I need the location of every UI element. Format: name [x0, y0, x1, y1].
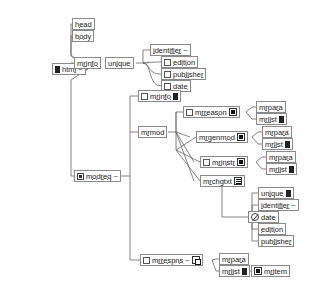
- solid-bar-icon[interactable]: [242, 268, 247, 275]
- tree-node-label: mrlist: [269, 165, 287, 174]
- empty-checkbox-icon[interactable]: [164, 83, 171, 90]
- tree-node-head[interactable]: head: [72, 18, 95, 30]
- tree-node-mrpara2[interactable]: mrpara: [262, 126, 292, 138]
- tree-node-label: mrlist: [265, 140, 283, 149]
- tree-node-label: mrchgtxt: [203, 177, 232, 186]
- tree-node-label: mrrespns: [152, 256, 183, 265]
- tree-node-unique2[interactable]: unique: [258, 187, 294, 199]
- empty-checkbox-icon[interactable]: [143, 257, 150, 264]
- tree-node-label: mrinfo: [150, 92, 171, 101]
- tree-node-mrreason[interactable]: mrreason: [183, 106, 240, 118]
- duplicate-box-icon[interactable]: [192, 256, 200, 264]
- empty-checkbox-icon[interactable]: [186, 109, 193, 116]
- filled-square-icon[interactable]: [237, 133, 245, 141]
- tree-node-label: mrpara: [222, 255, 246, 264]
- tree-node-label: unique: [261, 189, 284, 198]
- tree-node-edition2[interactable]: edition: [258, 223, 286, 235]
- tree-node-mrinfo2[interactable]: mrinfo: [138, 90, 181, 102]
- empty-checkbox-icon[interactable]: [141, 93, 148, 100]
- tree-node-identifier1[interactable]: identifier~: [150, 44, 191, 56]
- tree-node-mrmod[interactable]: mrmod: [138, 126, 167, 138]
- tree-node-mrlist2[interactable]: mrlist: [262, 138, 293, 150]
- tree-node-label: mrmod: [141, 128, 164, 137]
- tree-node-label: mrlist: [259, 115, 277, 124]
- tree-node-edition1[interactable]: edition: [161, 56, 198, 68]
- tree-node-label: edition: [173, 58, 195, 67]
- empty-checkbox-icon[interactable]: [164, 59, 171, 66]
- tree-node-label: unique: [108, 59, 131, 68]
- tree-node-label: mrreason: [195, 108, 227, 117]
- tree-node-label: body: [75, 32, 91, 41]
- tree-node-label: mrgenmod: [199, 133, 235, 142]
- content-model-tree-diagram: html~headbodymrinfouniqueidentifier~edit…: [0, 0, 322, 285]
- empty-checkbox-icon[interactable]: [164, 71, 171, 78]
- filled-square-icon[interactable]: [237, 158, 245, 166]
- filled-square-icon[interactable]: [254, 267, 262, 275]
- tree-node-mrlist3[interactable]: mrlist: [266, 163, 297, 175]
- tree-node-mrpara1[interactable]: mrpara: [256, 101, 286, 113]
- solid-bar-icon[interactable]: [286, 190, 291, 197]
- tree-node-label: edition: [261, 225, 283, 234]
- tree-node-label: head: [75, 20, 92, 29]
- tree-node-label: mrinfo: [77, 59, 98, 68]
- tree-node-mrpara3[interactable]: mrpara: [266, 151, 296, 163]
- tree-node-label: mrpara: [269, 153, 293, 162]
- tree-node-mrpara4[interactable]: mrpara: [219, 253, 249, 265]
- tree-node-mrchgtxt[interactable]: mrchgtxt: [200, 175, 245, 187]
- tree-node-mrlist1[interactable]: mrlist: [256, 113, 287, 125]
- solid-bar-icon[interactable]: [289, 166, 294, 173]
- solid-bar-icon[interactable]: [285, 141, 290, 148]
- tree-node-unique1[interactable]: unique: [105, 57, 134, 69]
- tree-node-label: mritem: [264, 267, 287, 276]
- repeat-tilde-marker: ~: [113, 172, 117, 181]
- tree-node-mritem[interactable]: mritem: [251, 265, 290, 277]
- tree-node-publisher2[interactable]: publisher: [258, 235, 294, 247]
- tree-node-date2[interactable]: date: [248, 211, 279, 223]
- module-icon[interactable]: [77, 173, 84, 180]
- tree-node-modreq[interactable]: modreq~: [74, 170, 121, 182]
- tree-node-label: mrpara: [265, 128, 289, 137]
- stacked-lines-icon[interactable]: [234, 177, 242, 185]
- tree-node-label: mrpara: [259, 103, 283, 112]
- tree-node-mrrespns[interactable]: mrrespns~: [140, 254, 203, 266]
- circle-slash-icon[interactable]: [251, 213, 259, 221]
- repeat-tilde-marker: ~: [183, 46, 187, 55]
- tree-node-label: identifier: [153, 46, 181, 55]
- tree-node-label: publisher: [173, 70, 203, 79]
- tree-node-publisher1[interactable]: publisher: [161, 68, 206, 80]
- tree-node-label: mrlist: [222, 267, 240, 276]
- tree-node-label: mrinstr: [212, 158, 235, 167]
- tree-node-mrlist4[interactable]: mrlist: [219, 265, 250, 277]
- filled-square-icon[interactable]: [229, 108, 237, 116]
- tree-node-label: identifier: [261, 201, 289, 210]
- solid-bar-icon[interactable]: [55, 66, 60, 73]
- tree-node-identifier2[interactable]: identifier~: [258, 199, 299, 211]
- solid-bar-icon[interactable]: [173, 93, 178, 100]
- repeat-tilde-marker: ~: [291, 201, 295, 210]
- tree-node-mrinstr[interactable]: mrinstr: [200, 156, 248, 168]
- tree-node-label: date: [261, 213, 276, 222]
- tree-node-mrinfo1[interactable]: mrinfo: [74, 57, 101, 69]
- tree-node-label: modreq: [86, 172, 111, 181]
- tree-node-mrgenmod[interactable]: mrgenmod: [196, 131, 248, 143]
- tree-node-body[interactable]: body: [72, 30, 94, 42]
- repeat-tilde-marker: ~: [185, 256, 189, 265]
- empty-checkbox-icon[interactable]: [203, 159, 210, 166]
- tree-node-label: publisher: [261, 237, 291, 246]
- solid-bar-icon[interactable]: [279, 116, 284, 123]
